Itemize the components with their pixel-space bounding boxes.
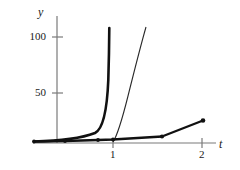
thin-rising-curve — [113, 27, 146, 142]
data-point-marker — [160, 134, 164, 138]
data-point-marker — [201, 118, 206, 123]
steep-asymptotic-curve — [34, 28, 109, 142]
data-point-marker — [63, 139, 67, 143]
data-point-marker — [32, 140, 36, 144]
plot-figure: 100 50 1 2 y t — [0, 0, 240, 170]
y-tick-label-50: 50 — [35, 87, 46, 98]
x-axis-label: t — [219, 138, 222, 150]
x-tick-label-2: 2 — [199, 149, 205, 160]
y-tick-label-100: 100 — [30, 31, 47, 42]
x-tick-label-1: 1 — [110, 149, 116, 160]
data-point-marker — [111, 138, 115, 142]
data-point-marker — [96, 138, 100, 142]
y-axis-label: y — [38, 6, 43, 18]
plot-canvas — [0, 0, 240, 170]
